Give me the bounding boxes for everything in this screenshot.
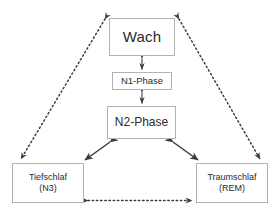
node-n2-phase-label: N2-Phase	[115, 115, 168, 129]
edge-wach-rem	[179, 19, 260, 159]
node-wach[interactable]: Wach	[109, 18, 175, 56]
node-n2-phase[interactable]: N2-Phase	[107, 106, 176, 139]
node-tiefschlaf-sublabel: (N3)	[39, 183, 57, 194]
edge-n2-n3	[85, 142, 110, 160]
node-n1-phase-label: N1-Phase	[121, 75, 163, 86]
node-traumschlaf-label: Traumschlaf	[207, 172, 256, 183]
node-traumschlaf[interactable]: Traumschlaf (REM)	[196, 163, 268, 203]
edge-n2-rem	[173, 142, 198, 160]
node-wach-label: Wach	[123, 28, 162, 46]
node-tiefschlaf[interactable]: Tiefschlaf (N3)	[12, 163, 84, 203]
node-n1-phase[interactable]: N1-Phase	[112, 72, 172, 90]
node-tiefschlaf-label: Tiefschlaf	[29, 172, 67, 183]
node-traumschlaf-sublabel: (REM)	[219, 183, 245, 194]
sleep-stage-diagram: Wach N1-Phase N2-Phase Tiefschlaf (N3) T…	[0, 0, 280, 220]
edge-wach-n3	[21, 19, 105, 159]
